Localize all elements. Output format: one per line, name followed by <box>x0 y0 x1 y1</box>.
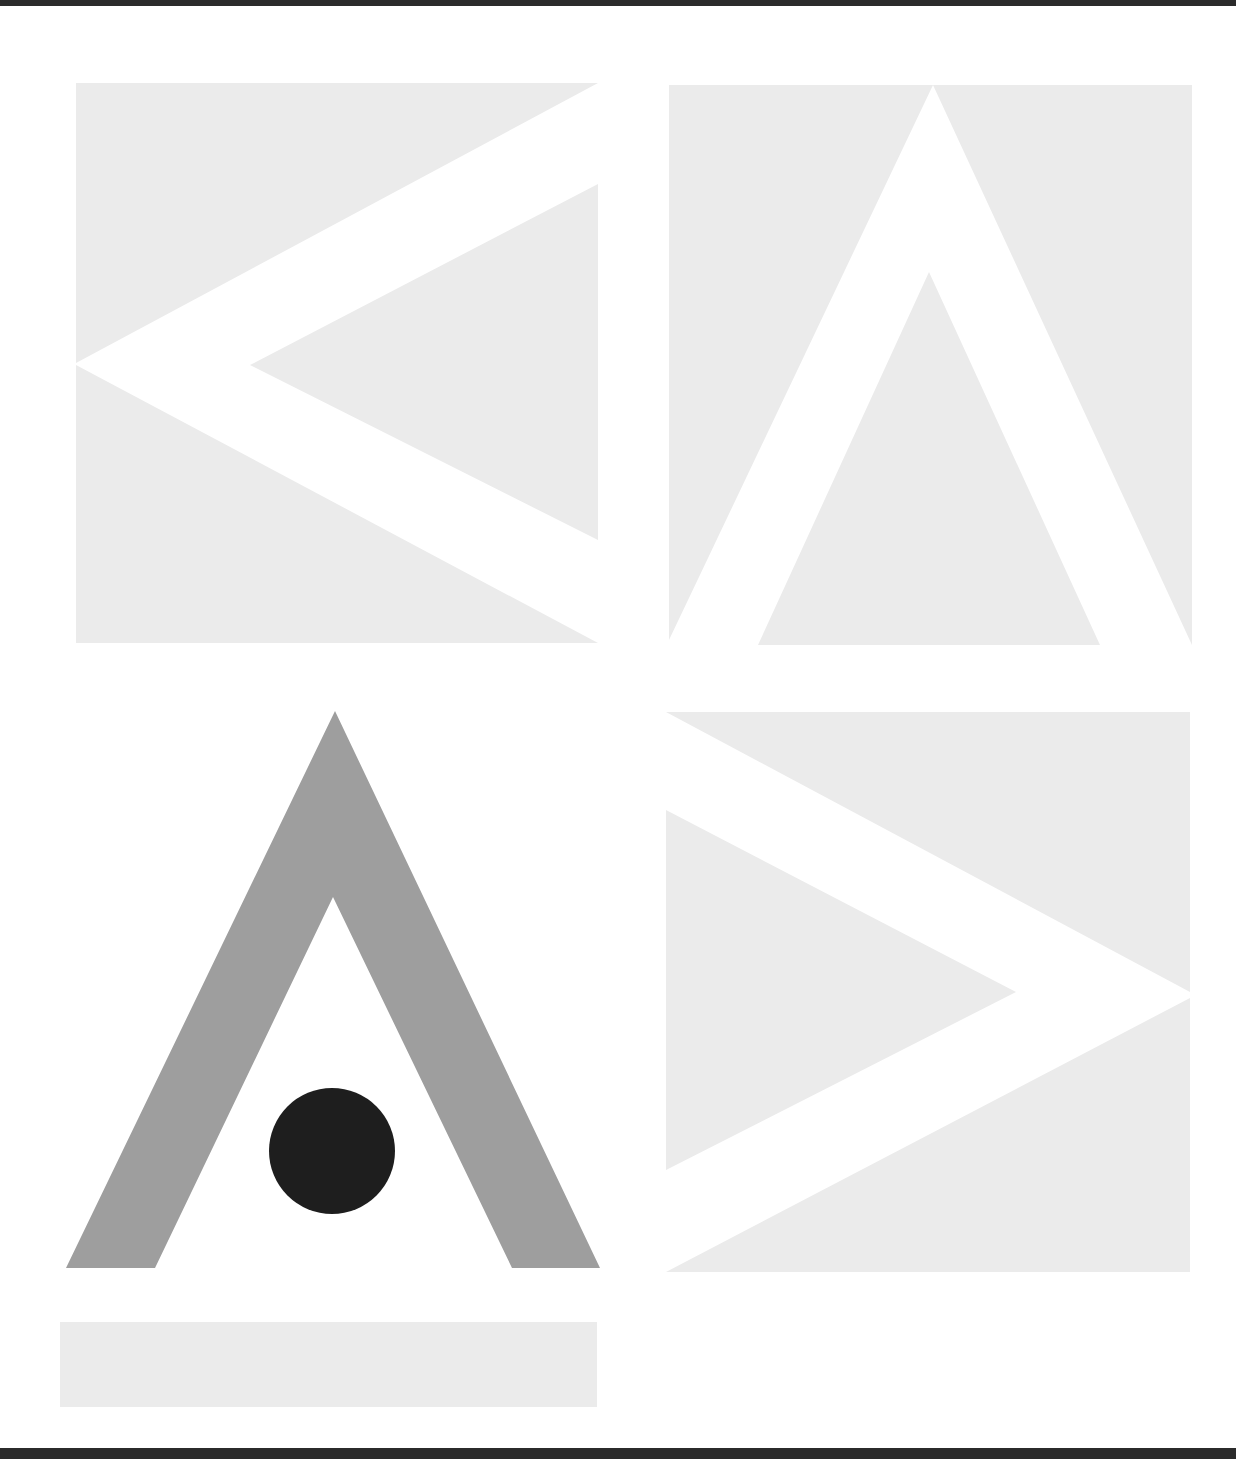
panel-top-left <box>76 83 598 643</box>
bottom-frame-bar <box>0 1448 1236 1459</box>
black-dot <box>269 1088 395 1214</box>
bottom-strip <box>60 1322 597 1407</box>
poster-artwork <box>0 0 1236 1459</box>
panel-bottom-left <box>66 711 600 1268</box>
panel-bottom-right <box>666 712 1190 1272</box>
panel-top-right <box>669 85 1192 645</box>
